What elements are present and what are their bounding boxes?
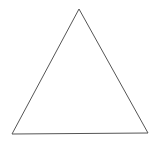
triangle-diagram <box>0 0 160 141</box>
triangle-shape <box>12 9 148 134</box>
diagram-canvas <box>0 0 160 141</box>
